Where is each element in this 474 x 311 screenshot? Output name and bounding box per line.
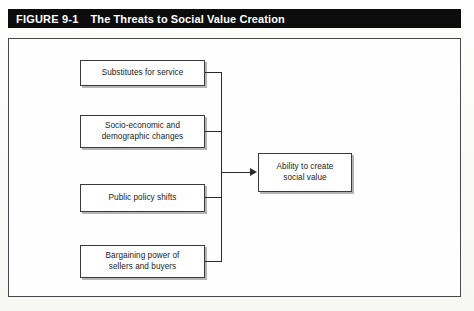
diagram-node-public-policy[interactable]: Public policy shifts — [80, 184, 205, 212]
diagram-node-label: Public policy shifts — [105, 193, 181, 204]
diagram-node-label: Substitutes for service — [98, 68, 188, 79]
figure-title-text: The Threats to Social Value Creation — [91, 13, 285, 25]
diagram-node-socio-demo[interactable]: Socio-economic and demographic changes — [80, 115, 205, 148]
figure-number-label: FIGURE 9-1 — [16, 13, 79, 25]
figure-frame — [8, 38, 461, 297]
connector-stub-public-policy — [205, 197, 222, 198]
diagram-node-social-value[interactable]: Ability to create social value — [258, 153, 352, 192]
diagram-node-bargaining[interactable]: Bargaining power of sellers and buyers — [80, 245, 205, 278]
connector-stub-socio-demo — [205, 131, 222, 132]
diagram-node-label: Socio-economic and demographic changes — [98, 121, 188, 142]
connector-arrow-shaft — [221, 172, 251, 173]
connector-trunk-line — [221, 72, 222, 262]
figure-screenshot: FIGURE 9-1 The Threats to Social Value C… — [0, 0, 474, 311]
figure-title-bar: FIGURE 9-1 The Threats to Social Value C… — [8, 9, 461, 28]
diagram-node-label: Bargaining power of sellers and buyers — [102, 251, 184, 272]
connector-stub-substitutes — [205, 72, 222, 73]
diagram-node-label: Ability to create social value — [273, 162, 338, 183]
diagram-node-substitutes[interactable]: Substitutes for service — [80, 60, 205, 86]
arrow-head-icon — [250, 168, 257, 176]
connector-stub-bargaining — [205, 261, 222, 262]
